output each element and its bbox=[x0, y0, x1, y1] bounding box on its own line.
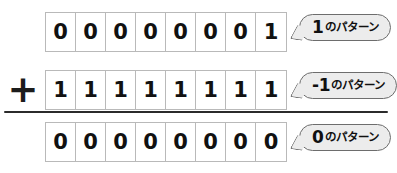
bit-cell: 0 bbox=[106, 13, 136, 51]
callout-value: 1 bbox=[312, 19, 324, 36]
callout-tail-icon bbox=[290, 83, 310, 99]
addend-row-2: + 1 1 1 1 1 1 1 1 -1 のパターン bbox=[0, 68, 394, 112]
bit-cell: 0 bbox=[76, 123, 106, 161]
bit-cell: 0 bbox=[136, 13, 166, 51]
callout-suffix: のパターン bbox=[325, 132, 379, 144]
bit-cell: 1 bbox=[256, 71, 286, 109]
callout-addend-1: 1 のパターン bbox=[299, 14, 391, 41]
bit-cell: 0 bbox=[76, 13, 106, 51]
bit-grid-addend-1: 0 0 0 0 0 0 0 1 bbox=[45, 12, 287, 52]
bit-grid-addend-2: 1 1 1 1 1 1 1 1 bbox=[45, 70, 287, 110]
callout-addend-2: -1 のパターン bbox=[299, 72, 397, 99]
bit-cell: 0 bbox=[46, 13, 76, 51]
bit-cell: 1 bbox=[76, 71, 106, 109]
bit-cell: 0 bbox=[166, 123, 196, 161]
callout-sum: 0 のパターン bbox=[299, 124, 391, 151]
bit-cell: 0 bbox=[46, 123, 76, 161]
callout-tail-icon bbox=[290, 135, 310, 151]
bit-cell: 0 bbox=[136, 123, 166, 161]
callout-suffix: のパターン bbox=[331, 80, 385, 92]
bit-cell: 0 bbox=[106, 123, 136, 161]
bit-cell: 1 bbox=[226, 71, 256, 109]
bit-cell: 0 bbox=[196, 13, 226, 51]
bit-cell: 1 bbox=[166, 71, 196, 109]
plus-operator: + bbox=[6, 68, 40, 112]
callout-value: 0 bbox=[312, 129, 324, 146]
bit-cell: 1 bbox=[46, 71, 76, 109]
bit-cell: 1 bbox=[136, 71, 166, 109]
bit-cell: 0 bbox=[256, 123, 286, 161]
callout-suffix: のパターン bbox=[325, 22, 379, 34]
callout-tail-icon bbox=[290, 25, 310, 41]
bit-cell: 0 bbox=[226, 13, 256, 51]
bit-cell: 0 bbox=[166, 13, 196, 51]
callout-value: -1 bbox=[312, 77, 330, 94]
bit-cell: 1 bbox=[196, 71, 226, 109]
bit-cell: 1 bbox=[106, 71, 136, 109]
bit-cell: 1 bbox=[256, 13, 286, 51]
sum-row: 0 0 0 0 0 0 0 0 0 のパターン bbox=[0, 120, 394, 164]
sum-divider-rule bbox=[4, 111, 388, 113]
bit-cell: 0 bbox=[196, 123, 226, 161]
bit-cell: 0 bbox=[226, 123, 256, 161]
bit-grid-sum: 0 0 0 0 0 0 0 0 bbox=[45, 122, 287, 162]
addend-row-1: 0 0 0 0 0 0 0 1 1 のパターン bbox=[0, 10, 394, 54]
